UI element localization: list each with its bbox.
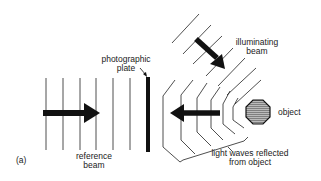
panel-label: (a) <box>16 156 26 165</box>
photographic-plate-label: photographic plate <box>100 55 152 73</box>
label-line: beam <box>68 161 120 170</box>
illuminating-beam-arrow-icon <box>196 39 225 69</box>
reference-beam-label: reference beam <box>68 152 120 170</box>
reference-beam-arrow-icon <box>43 103 100 123</box>
hologram-recording-diagram: photographic plate illuminating beam obj… <box>0 0 321 181</box>
reflected-beam-arrow-icon <box>170 104 220 122</box>
label-line: plate <box>100 64 152 73</box>
object-label: object <box>278 108 301 117</box>
panel-label-text: (a) <box>16 155 26 165</box>
photographic-plate <box>146 77 150 152</box>
label-line: beam <box>232 47 282 56</box>
label-line: from object <box>206 158 294 167</box>
label-line: object <box>278 107 301 117</box>
reflected-waves-label: light waves reflected from object <box>206 149 294 167</box>
object-octagon <box>246 100 270 124</box>
illuminating-beam-label: illuminating beam <box>232 38 282 56</box>
